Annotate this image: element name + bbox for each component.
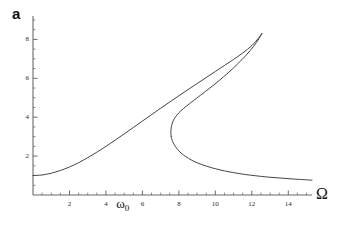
curve-upper-branch [33, 34, 262, 176]
x-axis-label: Ω [316, 186, 328, 202]
y-tick-label: 8 [17, 36, 29, 43]
x-tick-label: 4 [99, 201, 113, 208]
x-tick-label: 2 [62, 201, 76, 208]
x-tick-label: 10 [208, 201, 222, 208]
axes-group [33, 16, 312, 195]
x-tick-label: 12 [245, 201, 259, 208]
x-tick-label: 14 [281, 201, 295, 208]
curve-lower-branch [171, 137, 312, 181]
y-tick-label: 4 [17, 114, 29, 121]
omega-naught-subscript: 0 [125, 203, 130, 213]
x-tick-label: 6 [135, 201, 149, 208]
figure-panel: a Ω ω0 2468 2468101214 [0, 0, 350, 227]
chart-canvas [0, 0, 350, 227]
omega-naught-symbol: ω [116, 196, 125, 211]
x-tick-label: 8 [172, 201, 186, 208]
omega-naught-annotation: ω0 [116, 196, 129, 213]
y-axis-label: a [12, 6, 20, 21]
y-tick-label: 6 [17, 75, 29, 82]
response-curve-group [33, 34, 312, 181]
y-tick-label: 2 [17, 153, 29, 160]
